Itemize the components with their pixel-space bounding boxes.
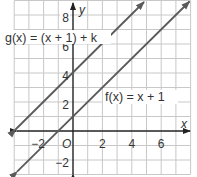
y-axis-label: y: [78, 3, 86, 17]
x-tick-label: −2: [31, 137, 45, 151]
y-tick-label: 8: [62, 11, 69, 25]
y-tick-label: −2: [55, 156, 69, 170]
y-tick-label: 2: [62, 98, 69, 112]
x-tick-label: 6: [158, 137, 165, 151]
x-axis-label: x: [180, 117, 188, 131]
g-equation-label: g(x) = (x + 1) + k: [5, 31, 98, 45]
x-tick-label: 4: [128, 137, 135, 151]
y-tick-label: 4: [62, 69, 69, 83]
coordinate-plane: −2 2 4 6 8 6 4 2 −2 O x y g(x) = (x + 1)…: [0, 0, 197, 177]
x-tick-label: 2: [99, 137, 106, 151]
f-equation-label: f(x) = x + 1: [105, 90, 165, 104]
origin-label: O: [62, 137, 71, 151]
